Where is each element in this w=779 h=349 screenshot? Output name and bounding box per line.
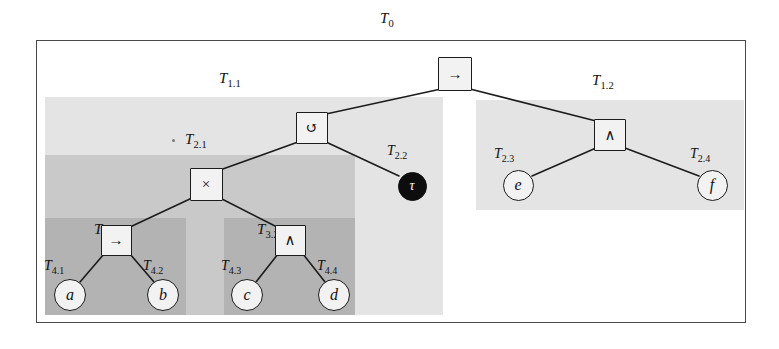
- tree-node-a[interactable]: a: [54, 279, 86, 311]
- caption-base: T: [690, 146, 698, 161]
- caption-t1-2: T1.2: [592, 72, 614, 91]
- tree-node-tau[interactable]: τ: [398, 172, 427, 201]
- node-caption-t4-4: T4.4: [317, 258, 337, 276]
- node-caption-t4-3: T4.3: [221, 258, 241, 276]
- caption-base: T: [317, 258, 325, 273]
- caption-base: T: [380, 10, 389, 26]
- caption-t1-1: T1.1: [219, 70, 241, 89]
- caption-base: T: [221, 258, 229, 273]
- caption-subscript: 2.4: [698, 153, 711, 164]
- caption-base: T: [592, 72, 601, 88]
- conjunction-icon: ∧: [605, 127, 616, 142]
- caption-base: T: [185, 131, 194, 147]
- caption-base: T: [494, 146, 502, 161]
- caption-subscript: 2.1: [194, 139, 207, 150]
- caption-subscript: 2.3: [502, 153, 515, 164]
- node-label-e: e: [514, 177, 521, 193]
- caption-subscript: 0: [389, 18, 394, 29]
- caption-base: T: [143, 258, 151, 273]
- caption-t0: T0: [380, 10, 394, 29]
- caption-base: T: [257, 221, 266, 237]
- caption-subscript: 2.2: [395, 150, 408, 161]
- times-icon: ×: [202, 176, 210, 191]
- node-label-b: b: [159, 287, 167, 303]
- tree-node-and2[interactable]: ∧: [594, 119, 626, 151]
- tree-node-impl2[interactable]: →: [101, 225, 132, 256]
- caption-subscript: 4.1: [52, 265, 65, 276]
- tau-symbol: τ: [409, 179, 414, 193]
- caption-t2-1: T2.1: [185, 131, 207, 150]
- node-caption-t2-2: T2.2: [387, 143, 407, 161]
- node-label-a: a: [66, 287, 74, 303]
- tree-node-f[interactable]: f: [697, 170, 728, 201]
- tree-node-c[interactable]: c: [231, 279, 263, 311]
- loop-arrow-icon: ↺: [306, 120, 319, 135]
- implication-arrow-icon: →: [448, 66, 463, 81]
- caption-subscript: 4.3: [229, 265, 242, 276]
- stray-speck: [172, 139, 175, 142]
- node-caption-t2-4: T2.4: [690, 146, 710, 164]
- implication-arrow-icon: →: [109, 232, 124, 247]
- tree-node-b[interactable]: b: [147, 279, 179, 311]
- node-label-f: f: [710, 177, 714, 193]
- tree-node-loop[interactable]: ↺: [296, 112, 328, 144]
- node-caption-t4-2: T4.2: [143, 258, 163, 276]
- tree-node-e[interactable]: e: [503, 170, 534, 201]
- caption-subscript: 4.2: [151, 265, 164, 276]
- tree-node-and1[interactable]: ∧: [275, 225, 306, 256]
- caption-subscript: 4.4: [325, 265, 338, 276]
- node-caption-t4-1: T4.1: [44, 258, 64, 276]
- caption-subscript: 1.2: [601, 80, 614, 91]
- tree-node-times[interactable]: ×: [190, 168, 223, 201]
- tree-diagram-canvas: T0 T1.1 T1.2 T2.1 T3.1 T3.2 T2.2 T4.1 T4…: [0, 0, 779, 349]
- caption-base: T: [387, 143, 395, 158]
- node-label-c: c: [243, 287, 250, 303]
- conjunction-icon: ∧: [285, 232, 296, 247]
- tree-node-root[interactable]: →: [438, 57, 472, 91]
- caption-base: T: [219, 70, 228, 86]
- node-label-d: d: [330, 287, 338, 303]
- node-caption-t2-3: T2.3: [494, 146, 514, 164]
- caption-base: T: [44, 258, 52, 273]
- tree-node-d[interactable]: d: [318, 279, 350, 311]
- caption-subscript: 1.1: [228, 78, 241, 89]
